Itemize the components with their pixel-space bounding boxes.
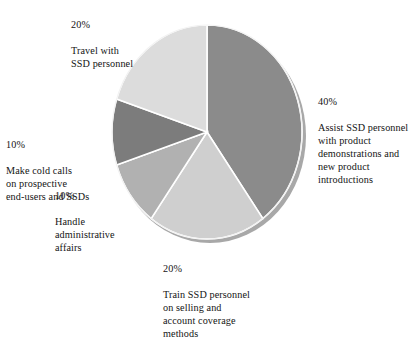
pie-label-assist-percent: 40%	[318, 95, 420, 108]
pie-label-assist-text: Assist SSD personnel with product demons…	[318, 121, 420, 186]
pie-label-train-percent: 20%	[163, 262, 278, 275]
pie-label-travel: 20% Travel with SSD personnel	[71, 5, 133, 83]
pie-label-admin: 10% Handle administrative affairs	[55, 176, 127, 267]
pie-label-train-text: Train SSD personnel on selling and accou…	[163, 288, 278, 340]
pie-label-admin-text: Handle administrative affairs	[55, 215, 127, 254]
pie-label-assist: 40% Assist SSD personnel with product de…	[318, 82, 420, 199]
pie-label-train: 20% Train SSD personnel on selling and a…	[163, 249, 278, 341]
pie-label-admin-percent: 10%	[55, 189, 127, 202]
pie-label-travel-text: Travel with SSD personnel	[71, 44, 133, 70]
pie-label-travel-percent: 20%	[71, 18, 133, 31]
pie-label-cold-calls-percent: 10%	[6, 138, 112, 151]
